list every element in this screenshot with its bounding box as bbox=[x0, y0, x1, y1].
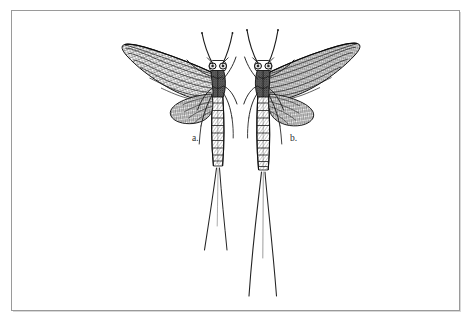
mayfly-figure-a: a. bbox=[122, 32, 237, 250]
mayfly-plate-illustration: a. bbox=[0, 0, 472, 323]
figure-a-forewing bbox=[122, 44, 213, 100]
figure-b-forelegs bbox=[246, 29, 279, 64]
figure-b-cerci bbox=[249, 172, 277, 296]
figure-b-forewing bbox=[269, 43, 360, 100]
mayfly-figure-b: b. bbox=[244, 29, 360, 296]
figure-a-hindwing bbox=[170, 94, 213, 124]
plate-page: a. bbox=[0, 0, 472, 323]
figure-b-abdomen bbox=[257, 96, 270, 170]
figure-b-label: b. bbox=[290, 133, 297, 143]
figure-area: a. bbox=[0, 0, 472, 323]
figure-a-forelegs bbox=[201, 32, 233, 64]
figure-a-label: a. bbox=[192, 133, 199, 143]
figure-a-cerci bbox=[205, 168, 228, 250]
figure-a-abdomen bbox=[212, 96, 224, 166]
